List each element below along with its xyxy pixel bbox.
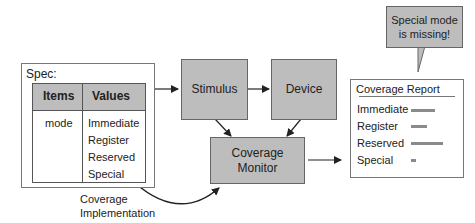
missing-mode-callout: Special mode is missing!	[386, 6, 463, 48]
report-bar-register	[411, 125, 427, 128]
device-label: Device	[286, 82, 323, 97]
table-divider	[82, 84, 83, 182]
callout-line-1: Special mode	[391, 13, 458, 27]
spec-table: Items Values mode Immediate Register Res…	[32, 83, 146, 183]
value-immediate: Immediate	[88, 117, 139, 129]
report-item-special: Special	[357, 154, 393, 166]
item-mode: mode	[45, 117, 73, 129]
report-item-immediate: Immediate	[357, 103, 408, 115]
report-bar-special	[411, 159, 416, 162]
value-register: Register	[88, 134, 129, 146]
header-values: Values	[92, 89, 130, 103]
value-reserved: Reserved	[88, 151, 135, 163]
value-special: Special	[88, 168, 124, 180]
report-bar-immediate	[411, 109, 435, 112]
device-block: Device	[271, 59, 337, 120]
spec-title: Spec:	[26, 67, 57, 81]
report-item-register: Register	[357, 120, 398, 132]
stimulus-block: Stimulus	[181, 59, 248, 120]
report-item-reserved: Reserved	[357, 137, 404, 149]
header-items: Items	[43, 89, 74, 103]
callout-line-2: is missing!	[391, 27, 458, 41]
report-divider	[359, 96, 455, 97]
report-bar-reserved	[411, 142, 443, 145]
coverage-implementation-label: Coverage Implementation	[80, 192, 155, 220]
coverage-monitor-label-1: Coverage	[231, 146, 283, 161]
impl-line-1: Coverage	[80, 192, 155, 206]
impl-line-2: Implementation	[80, 206, 155, 220]
stimulus-label: Stimulus	[191, 82, 237, 97]
coverage-monitor-label-2: Monitor	[237, 161, 277, 176]
coverage-monitor-block: Coverage Monitor	[210, 137, 305, 184]
report-title: Coverage Report	[356, 83, 440, 95]
